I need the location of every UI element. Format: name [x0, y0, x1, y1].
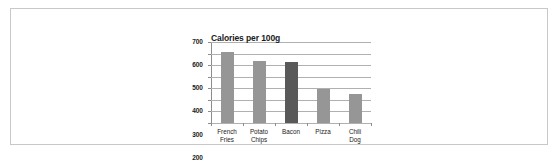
y-tick-label: 700 [192, 39, 203, 46]
x-tick-mark [307, 123, 308, 126]
y-tick-label: 300 [192, 131, 203, 138]
x-tick-mark [243, 123, 244, 126]
bar [285, 62, 298, 123]
y-tick-label: 200 [192, 154, 203, 160]
chart-title: Calories per 100g [211, 33, 280, 43]
x-axis-category-label: Bacon [282, 128, 300, 136]
x-tick-mark [275, 123, 276, 126]
x-axis-category-label: Potato Chips [250, 128, 268, 144]
x-axis-category-label: Chili Dog [347, 128, 363, 144]
x-tick-mark [371, 123, 372, 126]
bar [317, 89, 330, 123]
x-axis-category-label: French Fries [217, 128, 237, 144]
x-tick-mark [211, 123, 212, 126]
y-tick-label: 600 [192, 62, 203, 69]
x-tick-mark [339, 123, 340, 126]
bar-chart: Calories per 100g 0100200300400500600700… [187, 31, 387, 149]
gridline [211, 123, 371, 124]
y-tick-label: 400 [192, 108, 203, 115]
bar [349, 94, 362, 123]
bars-group [211, 42, 371, 123]
bar [221, 52, 234, 123]
screenshot-root: Calories per 100g 0100200300400500600700… [0, 0, 559, 160]
bar [253, 61, 266, 123]
document-frame: Calories per 100g 0100200300400500600700… [10, 8, 548, 145]
x-axis-category-label: Pizza [315, 128, 330, 136]
plot-area: 0100200300400500600700 French FriesPotat… [211, 42, 371, 123]
y-tick-label: 500 [192, 85, 203, 92]
